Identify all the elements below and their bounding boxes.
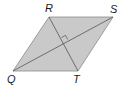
vertex-label-Q: Q — [7, 74, 16, 85]
rhombus-figure — [0, 0, 127, 90]
rhombus-diagram: R S Q T — [0, 0, 127, 90]
vertex-label-R: R — [45, 3, 53, 14]
vertex-label-T: T — [73, 74, 80, 85]
vertex-label-S: S — [110, 4, 117, 15]
